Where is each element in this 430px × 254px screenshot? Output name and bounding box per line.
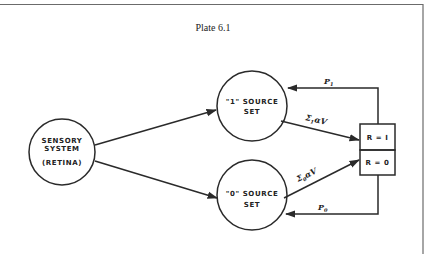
response-box: R = I R = 0	[360, 124, 395, 175]
arrow-sensory-to-source-1	[95, 110, 216, 145]
source-set-1-circle	[217, 71, 287, 141]
sum0-rest: αV	[303, 165, 319, 180]
p1-subscript: 1	[330, 81, 333, 87]
p0-subscript: 0	[324, 207, 328, 213]
label-p0: P0	[317, 202, 328, 213]
feedback-p1-arrow	[288, 88, 378, 124]
sensory-label-line1: SENSORY	[42, 137, 83, 145]
source-set-0-label-line2: SET	[244, 201, 260, 209]
source-set-1-label-line2: SET	[244, 108, 260, 116]
plate-title: Plate 6.1	[196, 22, 231, 33]
arrow-source-0-to-r0	[284, 160, 359, 198]
source-set-1-label-line1: "1" SOURCE	[226, 98, 279, 106]
response-label-r0: R = 0	[366, 159, 390, 167]
sensory-label-line2: SYSTEM	[44, 145, 79, 153]
svg-text:Σ1αV: Σ1αV	[303, 112, 328, 128]
arrow-sensory-to-source-0	[95, 161, 217, 198]
source-set-0-node: "0" SOURCE SET	[217, 160, 287, 230]
sensory-label-line3: (RETINA)	[42, 159, 82, 167]
label-p1: P1	[323, 76, 334, 87]
sum1-rest: αV	[313, 114, 328, 127]
source-set-1-node: "1" SOURCE SET	[217, 71, 287, 141]
label-sum1-alpha-v: Σ1αV	[303, 112, 328, 128]
response-label-r1: R = I	[367, 134, 389, 142]
source-set-0-label-line1: "0" SOURCE	[226, 190, 279, 198]
diagram-canvas: Plate 6.1 SENSORY SYSTEM (RETINA) "1" SO…	[0, 0, 430, 254]
sensory-system-node: SENSORY SYSTEM (RETINA)	[29, 119, 95, 185]
